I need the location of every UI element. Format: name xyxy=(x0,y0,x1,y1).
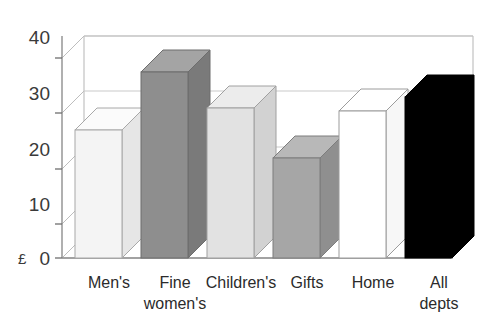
y-tick-label-20: 20 xyxy=(29,139,50,160)
bar-mens-front xyxy=(75,130,122,258)
category-label-fine-womens-line1: Fine xyxy=(159,274,190,291)
bar-all-depts-side xyxy=(452,75,474,258)
bar-childrens-front xyxy=(207,108,254,258)
y-tick-label-10: 10 xyxy=(29,194,50,215)
bar-fine-womens-front xyxy=(141,72,188,258)
x-axis-category-labels: Men's Fine women's Children's Gifts Home… xyxy=(88,274,459,312)
y-tick-label-30: 30 xyxy=(29,83,50,104)
bar-all-depts-front xyxy=(405,97,452,258)
y-axis-tick-labels: 40 30 20 10 0 £ xyxy=(18,27,50,269)
category-label-home: Home xyxy=(352,274,395,291)
y-tick-label-40: 40 xyxy=(29,27,50,48)
category-label-fine-womens-line2: women's xyxy=(143,295,207,312)
y-axis-ticks xyxy=(55,58,62,258)
y-tick-label-0: 0 xyxy=(39,248,50,269)
bar-all-depts xyxy=(405,75,474,258)
bar-gifts-front xyxy=(273,158,320,258)
bar-home xyxy=(339,89,408,258)
bar-chart: 40 30 20 10 0 £ xyxy=(0,0,499,325)
category-label-all-depts-line1: All xyxy=(430,274,448,291)
chart-canvas: 40 30 20 10 0 £ xyxy=(0,0,499,325)
bar-childrens xyxy=(207,86,276,258)
category-label-childrens: Children's xyxy=(206,274,277,291)
y-axis-currency-label: £ xyxy=(18,250,27,267)
category-label-all-depts-line2: depts xyxy=(419,295,458,312)
bar-gifts xyxy=(273,136,342,258)
bar-fine-womens xyxy=(141,50,210,258)
category-label-mens: Men's xyxy=(88,274,130,291)
bar-mens xyxy=(75,108,144,258)
bar-home-front xyxy=(339,111,386,258)
category-label-gifts: Gifts xyxy=(291,274,324,291)
